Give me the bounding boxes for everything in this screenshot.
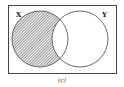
set-y-label: Y [101,10,108,19]
figure-caption: (c) [58,76,67,83]
set-x-label: X [16,10,22,19]
venn-diagram: X Y (c) [0,0,124,87]
